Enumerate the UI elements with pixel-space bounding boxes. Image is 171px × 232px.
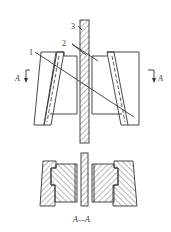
label-part-3: 3 (71, 22, 75, 31)
label-part-2: 2 (62, 39, 66, 48)
svg-text:A: A (14, 74, 20, 83)
section-view: A—A (40, 153, 137, 224)
arrow-down-icon (24, 78, 28, 83)
section-marker-right: A (148, 70, 163, 83)
section-marker-left: A (14, 70, 30, 83)
front-view: 3 2 1 A A (14, 20, 163, 143)
diagram-canvas: 3 2 1 A A A—A (0, 0, 171, 232)
section-caption: A—A (72, 215, 90, 224)
arrow-down-icon (152, 78, 156, 83)
left-inner-section (51, 164, 77, 202)
label-part-1: 1 (29, 48, 33, 57)
rod-section (81, 153, 88, 206)
svg-text:A: A (157, 74, 163, 83)
rod-part-3 (80, 20, 89, 143)
